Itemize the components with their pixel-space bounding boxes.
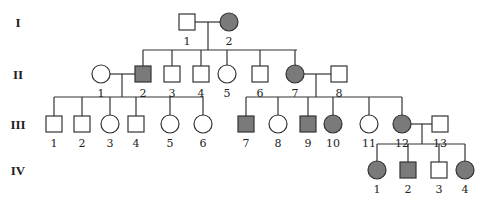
individual-number: 3: [107, 137, 114, 150]
affected-male-square-icon: [238, 116, 254, 132]
individual-number: 9: [305, 137, 312, 150]
individual-number: 12: [395, 137, 409, 150]
male-square-icon: [46, 116, 62, 132]
individual-IV-1: 1: [368, 161, 386, 196]
affected-male-square-icon: [300, 116, 316, 132]
female-circle-icon: [161, 115, 179, 133]
female-circle-icon: [92, 65, 110, 83]
individual-IV-4: 4: [456, 161, 474, 196]
male-square-icon: [128, 116, 144, 132]
individual-II-3: 3: [164, 66, 180, 100]
individual-III-13: 13: [432, 116, 448, 150]
individual-number: 8: [275, 137, 282, 150]
generation-label: IV: [11, 163, 26, 178]
individual-I-2: 2: [220, 13, 238, 48]
female-circle-icon: [101, 115, 119, 133]
individual-number: 7: [292, 87, 299, 100]
generation-label: II: [13, 67, 23, 82]
male-square-icon: [331, 66, 347, 82]
individual-III-7: 7: [238, 116, 254, 150]
male-square-icon: [74, 116, 90, 132]
individual-II-4: 4: [193, 66, 209, 100]
affected-female-circle-icon: [220, 13, 238, 31]
affected-female-circle-icon: [368, 161, 386, 179]
individual-number: 2: [405, 183, 412, 196]
male-square-icon: [164, 66, 180, 82]
individual-IV-2: 2: [400, 162, 416, 196]
individual-II-6: 6: [252, 66, 268, 100]
individual-II-2: 2: [135, 66, 151, 100]
individual-number: 2: [226, 35, 233, 48]
individual-II-1: 1: [92, 65, 110, 100]
individual-III-8: 8: [269, 115, 287, 150]
individual-number: 4: [462, 183, 469, 196]
affected-female-circle-icon: [456, 161, 474, 179]
individual-number: 8: [336, 87, 343, 100]
generation-label: III: [10, 117, 25, 132]
individual-III-5: 5: [161, 115, 179, 150]
female-circle-icon: [194, 115, 212, 133]
affected-female-circle-icon: [393, 115, 411, 133]
female-circle-icon: [269, 115, 287, 133]
individual-number: 2: [140, 87, 147, 100]
individual-II-7: 7: [286, 65, 304, 100]
individual-III-10: 10: [324, 115, 342, 150]
individual-number: 1: [184, 35, 191, 48]
male-square-icon: [252, 66, 268, 82]
female-circle-icon: [360, 115, 378, 133]
individual-number: 13: [433, 137, 447, 150]
individual-number: 3: [436, 183, 443, 196]
male-square-icon: [431, 162, 447, 178]
individual-III-2: 2: [74, 116, 90, 150]
individual-I-1: 1: [179, 14, 195, 48]
individual-number: 4: [198, 87, 205, 100]
individual-III-1: 1: [46, 116, 62, 150]
generation-label: I: [15, 15, 20, 30]
individual-III-6: 6: [194, 115, 212, 150]
individual-number: 1: [98, 87, 105, 100]
affected-male-square-icon: [135, 66, 151, 82]
female-circle-icon: [218, 65, 236, 83]
individual-III-3: 3: [101, 115, 119, 150]
individual-number: 10: [326, 137, 340, 150]
individual-III-9: 9: [300, 116, 316, 150]
individual-number: 11: [362, 137, 376, 150]
affected-female-circle-icon: [324, 115, 342, 133]
male-square-icon: [432, 116, 448, 132]
individual-number: 7: [243, 137, 250, 150]
individual-number: 3: [169, 87, 176, 100]
individual-number: 5: [224, 87, 231, 100]
individual-number: 6: [200, 137, 207, 150]
affected-male-square-icon: [400, 162, 416, 178]
individual-number: 1: [51, 137, 58, 150]
individual-III-11: 11: [360, 115, 378, 150]
generation-labels: IIIIIIIV: [10, 15, 25, 178]
individual-IV-3: 3: [431, 162, 447, 196]
individual-number: 6: [257, 87, 264, 100]
individual-number: 4: [133, 137, 140, 150]
individual-III-4: 4: [128, 116, 144, 150]
individual-number: 5: [167, 137, 174, 150]
individual-II-5: 5: [218, 65, 236, 100]
male-square-icon: [179, 14, 195, 30]
pedigree-svg: IIIIIIIV 1212345678123456789101112131234: [0, 0, 490, 200]
male-square-icon: [193, 66, 209, 82]
affected-female-circle-icon: [286, 65, 304, 83]
pedigree-chart: IIIIIIIV 1212345678123456789101112131234: [0, 0, 490, 200]
individual-III-12: 12: [393, 115, 411, 150]
individual-number: 1: [374, 183, 381, 196]
individual-number: 2: [79, 137, 86, 150]
individual-II-8: 8: [331, 66, 347, 100]
